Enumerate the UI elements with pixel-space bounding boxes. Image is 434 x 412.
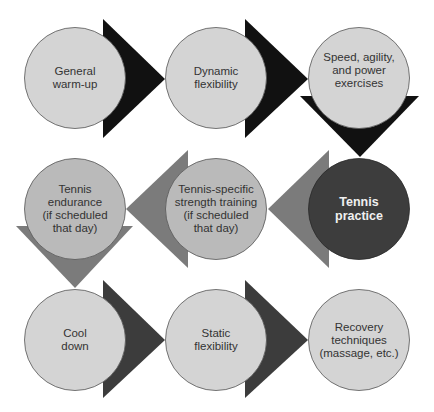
step-label-line: practice [335,209,383,223]
step-label-line: techniques [331,334,387,347]
step-label-line: Tennis-specific [178,183,253,196]
step-label-line: (if scheduled [183,209,248,222]
step-label-line: Speed, agility, [323,51,394,64]
step-label-static-flexibility: Static flexibility [166,290,266,390]
step-label-line: General [55,65,96,78]
step-label-recovery: Recovery techniques (massage, etc.) [309,290,409,390]
step-label-dynamic-flexibility: Dynamic flexibility [166,28,266,128]
step-label-line: Cool [63,327,87,340]
step-label-line: Recovery [335,321,384,334]
step-label-line: down [61,340,89,353]
step-label-line: that day) [194,222,239,235]
step-label-line: (if scheduled [42,209,107,222]
step-label-general-warm-up: General warm-up [25,28,125,128]
step-label-line: and power [332,64,386,77]
step-label-line: endurance [48,196,102,209]
step-label-tennis-strength: Tennis-specific strength training (if sc… [166,159,266,259]
step-label-tennis-practice: Tennis practice [309,159,409,259]
step-label-line: that day) [53,222,98,235]
step-label-line: flexibility [194,78,237,91]
step-label-tennis-endurance: Tennis endurance (if scheduled that day) [25,159,125,259]
step-label-line: Static [202,327,231,340]
step-label-line: (massage, etc.) [319,347,398,360]
step-label-line: warm-up [53,78,98,91]
step-label-line: Tennis [58,183,91,196]
step-label-line: exercises [335,77,384,90]
step-label-speed-agility-power: Speed, agility, and power exercises [309,20,409,120]
step-label-cool-down: Cool down [25,290,125,390]
step-label-line: flexibility [194,340,237,353]
step-label-line: Tennis [339,195,378,209]
step-label-line: strength training [175,196,257,209]
step-label-line: Dynamic [194,65,239,78]
